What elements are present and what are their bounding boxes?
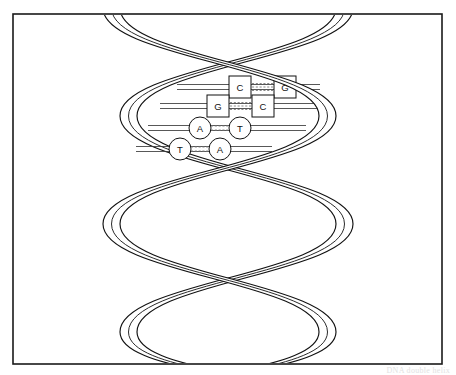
dna-helix-illustration: C G G C (0, 0, 456, 375)
dna-figure: C G G C (0, 0, 456, 375)
figure-caption: DNA double helix (387, 366, 450, 375)
base-node-square[interactable] (229, 76, 251, 98)
base-node-square[interactable] (207, 95, 229, 117)
base-node-circle[interactable] (189, 117, 211, 139)
base-node-circle[interactable] (229, 117, 251, 139)
base-pair-row: A T (148, 117, 306, 139)
base-node-circle[interactable] (169, 138, 191, 160)
helix-group: C G G C (103, 8, 353, 370)
base-node-circle[interactable] (209, 138, 231, 160)
base-node-square[interactable] (252, 95, 274, 117)
